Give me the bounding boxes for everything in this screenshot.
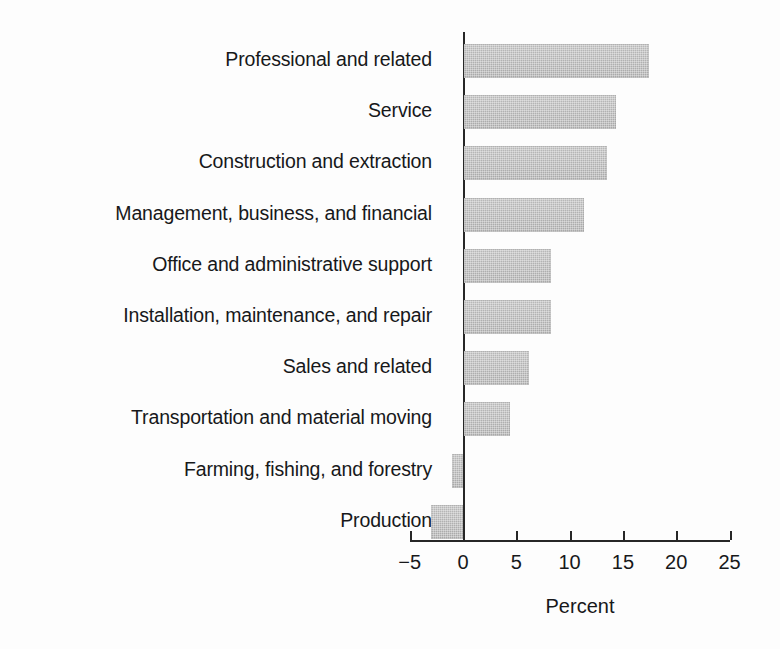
bar (452, 454, 463, 488)
bar (464, 300, 551, 334)
x-tick-mark (676, 531, 678, 540)
x-tick-label: −5 (398, 551, 421, 574)
x-tick-label: 25 (718, 551, 740, 574)
x-tick-mark (570, 531, 572, 540)
x-axis-title: Percent (546, 595, 615, 618)
x-tick-mark (623, 531, 625, 540)
bar (464, 402, 510, 436)
bar (464, 249, 551, 283)
x-tick-label: 20 (665, 551, 687, 574)
x-tick-mark (730, 531, 732, 540)
x-tick-mark (410, 531, 412, 540)
bar-chart-figure: Professional and relatedServiceConstruct… (0, 0, 780, 649)
x-tick-mark (463, 531, 465, 540)
bar (464, 351, 529, 385)
x-tick-label: 5 (511, 551, 522, 574)
x-tick-label: 10 (558, 551, 580, 574)
x-tick-label: 15 (612, 551, 634, 574)
x-axis-line (410, 540, 730, 542)
bar (464, 44, 649, 78)
bar (431, 505, 463, 539)
bar (464, 146, 607, 180)
plot-area: −50510152025 Percent (0, 0, 780, 649)
x-tick-mark (516, 531, 518, 540)
bar (464, 95, 616, 129)
bar (464, 198, 584, 232)
x-tick-label: 0 (457, 551, 468, 574)
